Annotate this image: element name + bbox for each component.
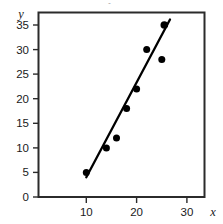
y-tick-label: 0 xyxy=(23,191,29,203)
x-axis-tick-labels: 10 20 30 xyxy=(80,206,193,218)
data-point xyxy=(113,135,120,142)
y-tick-label: 20 xyxy=(16,93,29,105)
x-tick-label: 30 xyxy=(181,206,194,218)
scatter-plot-figure: • 0 5 10 15 20 25 30 35 xyxy=(0,0,223,224)
data-point xyxy=(103,144,110,151)
x-tick-label: 10 xyxy=(80,206,93,218)
plot-frame xyxy=(39,13,205,198)
x-tick-label: 20 xyxy=(130,206,143,218)
y-axis-label: y xyxy=(16,7,24,21)
chart-canvas: 0 5 10 15 20 25 30 35 10 20 30 y x xyxy=(0,0,223,224)
data-point xyxy=(158,56,165,63)
y-tick-label: 15 xyxy=(16,117,29,129)
data-point xyxy=(143,46,150,53)
y-axis-tick-labels: 0 5 10 15 20 25 30 35 xyxy=(16,19,29,203)
data-point xyxy=(161,21,169,29)
y-tick-label: 10 xyxy=(16,142,29,154)
data-point xyxy=(83,169,90,176)
y-tick-label: 5 xyxy=(23,166,29,178)
x-axis-label: x xyxy=(209,205,216,219)
data-point xyxy=(133,85,140,92)
data-point xyxy=(123,105,130,112)
y-tick-label: 30 xyxy=(16,44,29,56)
y-tick-label: 25 xyxy=(16,68,29,80)
